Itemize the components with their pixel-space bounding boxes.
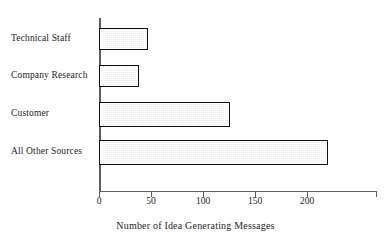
x-tick-label-50: 50 [146,197,156,207]
category-label-customer: Customer [11,109,49,119]
x-tick-label-100: 100 [196,197,210,207]
x-tick-label-0: 0 [97,197,102,207]
bar-company-research [99,65,139,87]
category-label-all-other-sources: All Other Sources [11,147,82,157]
bar-all-other-sources [99,140,328,165]
category-label-technical-staff: Technical Staff [11,34,71,44]
bar-customer [99,102,230,127]
plot-area: 0 50 100 150 200 [99,18,377,192]
x-axis-line [99,191,377,193]
x-tick-label-200: 200 [300,197,314,207]
bar-chart: Technical Staff Company Research Custome… [0,0,391,241]
x-axis-end-tick [376,192,377,197]
bar-technical-staff [99,28,148,50]
x-tick-label-150: 150 [248,197,262,207]
category-label-company-research: Company Research [11,71,88,81]
x-axis-title: Number of Idea Generating Messages [0,221,391,231]
